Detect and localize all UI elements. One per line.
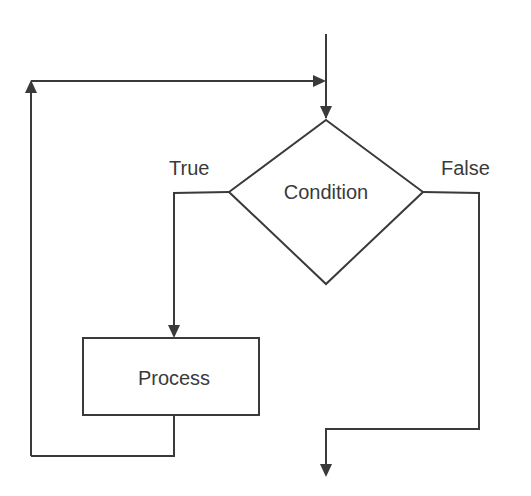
false-branch-label: False bbox=[441, 158, 490, 178]
flowchart-svg bbox=[0, 0, 531, 496]
loop-bottom-edge bbox=[31, 415, 174, 456]
entry-arrow-icon bbox=[320, 106, 332, 119]
true-edge bbox=[174, 192, 229, 326]
flowchart-canvas: Condition Process True False bbox=[0, 0, 531, 496]
true-arrow-icon bbox=[168, 325, 180, 338]
exit-arrow-icon bbox=[320, 464, 332, 477]
loop-right-arrow-icon bbox=[313, 75, 326, 87]
process-label: Process bbox=[138, 368, 210, 388]
true-branch-label: True bbox=[169, 158, 209, 178]
condition-label: Condition bbox=[284, 182, 369, 202]
